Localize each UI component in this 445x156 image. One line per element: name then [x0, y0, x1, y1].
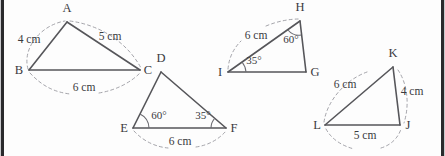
angle-label-i: 35° — [246, 54, 261, 66]
arc-bc-right — [99, 73, 140, 93]
triangle-jkl: K L J 6 cm 4 cm 5 cm — [313, 46, 423, 149]
edge-ab — [29, 22, 67, 70]
vertex-label-l: L — [313, 118, 321, 132]
vertex-label-e: E — [120, 121, 128, 135]
vertex-label-k: K — [388, 46, 397, 60]
arc-bc-left — [30, 73, 70, 94]
figure-canvas: A B C 4 cm 5 cm 6 cm D E F 6 cm 60° 35° — [0, 0, 445, 156]
arc-ac — [70, 21, 141, 68]
measure-label-kj: 4 cm — [401, 85, 424, 97]
triangle-abc: A B C 4 cm 5 cm 6 cm — [15, 1, 152, 94]
edge-hg — [300, 21, 306, 72]
arc-lj-left — [326, 129, 354, 149]
measure-label-lj: 5 cm — [354, 129, 377, 141]
measure-label-bc: 6 cm — [73, 81, 96, 93]
edge-df — [161, 72, 226, 128]
arc-ef-right — [196, 131, 226, 147]
measure-label-ih: 6 cm — [245, 29, 268, 41]
angle-label-f: 35° — [195, 109, 210, 121]
measure-label-ef: 6 cm — [169, 135, 192, 147]
arc-ab — [27, 21, 65, 69]
arc-ef-left — [134, 131, 168, 148]
vertex-label-j: J — [406, 118, 411, 132]
vertex-label-h: H — [295, 0, 304, 14]
angle-arc-f — [211, 118, 215, 128]
geometry-figure: A B C 4 cm 5 cm 6 cm D E F 6 cm 60° 35° — [0, 0, 445, 156]
triangle-ghi: H I G 6 cm 60° 35° — [218, 0, 320, 79]
vertex-label-f: F — [231, 121, 238, 135]
measure-label-lk: 6 cm — [334, 78, 357, 90]
measure-label-ac: 5 cm — [99, 30, 122, 42]
vertex-label-i: I — [218, 65, 222, 79]
measure-label-ab: 4 cm — [18, 33, 41, 45]
edge-kj — [393, 67, 400, 125]
vertex-label-b: B — [15, 63, 23, 77]
vertex-label-a: A — [62, 1, 71, 15]
vertex-label-c: C — [144, 63, 152, 77]
vertex-label-g: G — [310, 65, 319, 79]
angle-label-h: 60° — [283, 33, 298, 45]
angle-arc-e — [140, 114, 149, 128]
arc-lj-right — [381, 129, 401, 148]
angle-label-e: 60° — [151, 109, 166, 121]
vertex-label-d: D — [156, 51, 165, 65]
